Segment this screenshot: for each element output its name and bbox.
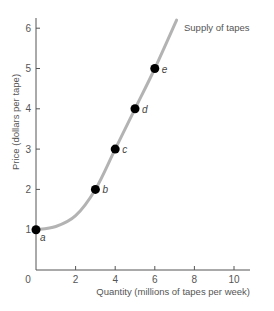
supply-curve-line — [36, 20, 177, 230]
x-axis-title: Quantity (millions of tapes per week) — [96, 286, 250, 297]
x-tick-label: 4 — [112, 274, 118, 285]
point-label-e: e — [162, 64, 168, 75]
supply-chart: 0246810123456 abcde Quantity (millions o… — [0, 0, 274, 311]
x-tick-label: 2 — [73, 274, 79, 285]
y-tick-label: 6 — [25, 23, 31, 34]
x-tick-label: 10 — [228, 274, 240, 285]
x-tick-label: 8 — [192, 274, 198, 285]
point-e — [150, 64, 159, 73]
y-tick-label: 3 — [25, 144, 31, 155]
y-tick-label: 5 — [25, 63, 31, 74]
y-tick-label: 4 — [25, 103, 31, 114]
axes: 0246810123456 — [25, 18, 250, 285]
data-points: abcde — [32, 64, 168, 243]
point-c — [111, 145, 120, 154]
point-label-a: a — [40, 232, 46, 243]
x-tick-label: 6 — [152, 274, 158, 285]
point-label-d: d — [142, 104, 148, 115]
curve-label: Supply of tapes — [184, 22, 250, 33]
y-tick-label: 1 — [25, 224, 31, 235]
y-tick-label: 2 — [25, 184, 31, 195]
supply-curve — [36, 20, 177, 230]
y-axis-title: Price (dollars per tape) — [10, 74, 21, 170]
point-b — [91, 185, 100, 194]
x-tick-label: 0 — [25, 274, 31, 285]
point-label-b: b — [102, 184, 108, 195]
point-label-c: c — [122, 144, 127, 155]
point-d — [131, 104, 140, 113]
